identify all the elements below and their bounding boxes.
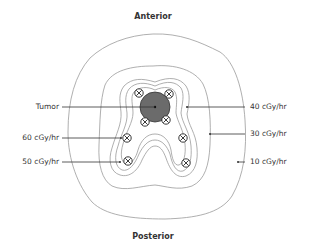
isodose-diagram-svg — [0, 0, 309, 252]
isodose-10-contour — [68, 34, 246, 219]
isodose-60-label: 60 cGy/hr — [22, 134, 59, 142]
seed-6 — [179, 134, 187, 142]
seed-7 — [124, 157, 132, 165]
isodose-30-label: 30 cGy/hr — [250, 130, 287, 138]
isodose-50-label: 50 cGy/hr — [22, 158, 59, 166]
isodose-40-label: 40 cGy/hr — [250, 103, 287, 111]
seed-8 — [182, 159, 190, 167]
isodose-10-label: 10 cGy/hr — [250, 158, 287, 166]
anterior-label: Anterior — [103, 13, 203, 21]
posterior-label: Posterior — [103, 233, 203, 241]
seed-1 — [135, 89, 143, 97]
isodose-diagram: Anterior Posterior Tumor 60 cGy/hr 50 cG… — [0, 0, 309, 252]
seed-2 — [165, 90, 173, 98]
seed-3 — [141, 118, 149, 126]
tumor-label: Tumor — [36, 103, 59, 111]
seed-5 — [123, 134, 131, 142]
seed-4 — [162, 116, 170, 124]
